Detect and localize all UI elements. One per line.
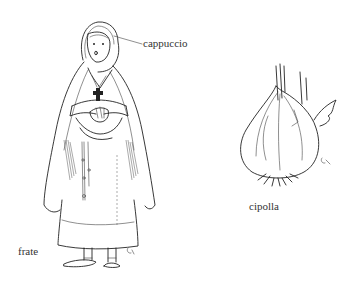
hood-drawing bbox=[81, 22, 118, 72]
cloak-drawing bbox=[44, 62, 84, 212]
onion-stalks bbox=[276, 64, 307, 104]
rope-belt bbox=[82, 142, 85, 200]
friar-figure bbox=[44, 22, 155, 268]
habit-drawing bbox=[58, 200, 138, 249]
sandal-right bbox=[104, 263, 120, 268]
onion-roots bbox=[258, 174, 298, 186]
label-frate: frate bbox=[18, 246, 38, 257]
hands-drawing bbox=[90, 108, 109, 122]
artist-signature bbox=[127, 248, 134, 254]
label-cipolla: cipolla bbox=[249, 201, 279, 212]
label-cappuccio: cappuccio bbox=[143, 38, 188, 49]
cross-pendant bbox=[93, 88, 103, 101]
sandal-left bbox=[64, 260, 96, 267]
onion-figure bbox=[241, 64, 336, 186]
